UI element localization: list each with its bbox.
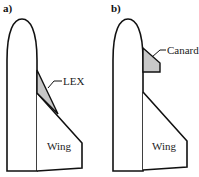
wing-b-label: Wing (152, 140, 176, 152)
panel-a: a) LEX Wing (3, 2, 84, 171)
panel-b-label: b) (111, 2, 121, 15)
wing-b (143, 92, 187, 170)
panel-b: b) Canard Wing (111, 2, 199, 171)
diagram-canvas: a) LEX Wing b) Canard Wing (0, 0, 199, 177)
canard-label: Canard (167, 44, 199, 56)
fuselage-a (7, 19, 37, 171)
wing-a (37, 93, 82, 171)
canard-leader-line (152, 50, 166, 57)
wing-a-label: Wing (47, 140, 71, 152)
lex-label: LEX (63, 75, 84, 87)
lex-leader-line (48, 81, 62, 88)
fuselage-b (113, 19, 143, 171)
panel-a-label: a) (3, 2, 13, 15)
